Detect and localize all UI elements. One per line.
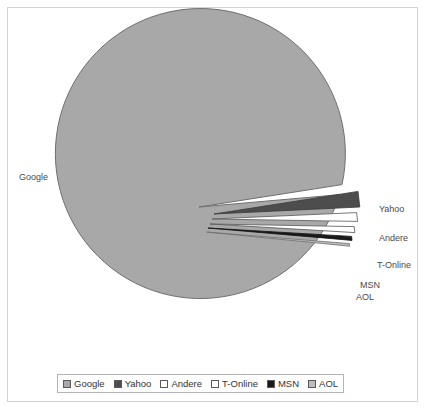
pie-label-msn: MSN [360, 280, 380, 290]
legend-item-yahoo[interactable]: Yahoo [114, 379, 152, 389]
legend-label-google: Google [74, 379, 105, 389]
legend-label-andere: Andere [171, 379, 202, 389]
pie-slice-google[interactable] [55, 9, 345, 299]
pie-chart-svg [8, 8, 419, 403]
pie-label-tonline: T-Online [377, 260, 411, 270]
legend-label-yahoo: Yahoo [125, 379, 152, 389]
pie-label-yahoo: Yahoo [379, 204, 404, 214]
legend-swatch-yahoo [114, 380, 122, 388]
legend-item-aol[interactable]: AOL [308, 379, 338, 389]
pie-label-andere: Andere [379, 233, 408, 243]
pie-chart-plot-area: Google Yahoo Andere T-Online MSN AOL [8, 8, 419, 403]
chart-legend: Google Yahoo Andere T-Online MSN AOL [57, 374, 344, 393]
legend-swatch-andere [160, 380, 168, 388]
legend-swatch-google [63, 380, 71, 388]
pie-label-google: Google [19, 172, 48, 182]
legend-item-tonline[interactable]: T-Online [211, 379, 258, 389]
legend-label-msn: MSN [278, 379, 299, 389]
legend-swatch-msn [267, 380, 275, 388]
pie-label-aol: AOL [356, 292, 374, 302]
legend-item-google[interactable]: Google [63, 379, 105, 389]
legend-label-tonline: T-Online [222, 379, 258, 389]
legend-item-msn[interactable]: MSN [267, 379, 299, 389]
legend-swatch-tonline [211, 380, 219, 388]
chart-frame: Marktanteil Google Yahoo Andere T-Online… [7, 7, 418, 402]
legend-item-andere[interactable]: Andere [160, 379, 202, 389]
legend-swatch-aol [308, 380, 316, 388]
legend-label-aol: AOL [319, 379, 338, 389]
